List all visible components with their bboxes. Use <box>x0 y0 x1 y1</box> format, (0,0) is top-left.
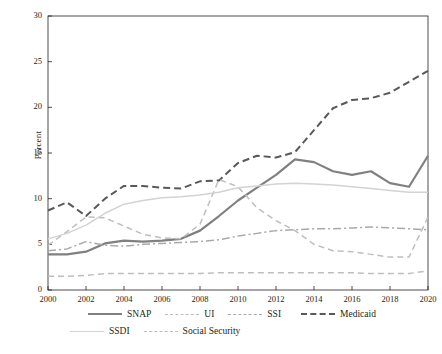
x-tick-label: 2010 <box>223 294 253 304</box>
series-line <box>48 183 428 239</box>
y-tick-label: 10 <box>22 193 42 203</box>
y-tick-label: 15 <box>22 147 42 157</box>
legend-swatch-social-security <box>144 331 178 332</box>
x-tick-label: 2018 <box>375 294 405 304</box>
legend-swatch-snap <box>88 313 122 315</box>
x-tick-label: 2002 <box>71 294 101 304</box>
series-line <box>48 71 428 216</box>
legend-label: Medicaid <box>340 309 376 319</box>
legend-item: SNAP <box>88 307 151 321</box>
legend-label: SNAP <box>127 309 151 319</box>
chart-legend: SNAPUISSIMedicaidSSDISocial Security <box>70 307 410 341</box>
legend-label: UI <box>204 309 214 319</box>
y-tick-label: 25 <box>22 56 42 66</box>
x-tick-label: 2020 <box>413 294 442 304</box>
legend-swatch-ssdi <box>70 331 104 332</box>
series-line <box>48 156 428 255</box>
y-tick-label: 5 <box>22 238 42 248</box>
series-line <box>48 179 428 257</box>
series-line <box>48 227 428 251</box>
x-tick-label: 2000 <box>33 294 63 304</box>
x-tick-label: 2006 <box>147 294 177 304</box>
y-tick-label: 30 <box>22 10 42 20</box>
legend-item: UI <box>165 307 214 321</box>
x-tick-label: 2008 <box>185 294 215 304</box>
legend-label: SSDI <box>109 326 130 336</box>
legend-item: Social Security <box>144 324 241 338</box>
y-tick-label: 20 <box>22 101 42 111</box>
legend-label: SSI <box>267 309 281 319</box>
x-tick-label: 2012 <box>261 294 291 304</box>
chart-container: Percent 051015202530 2000200220042006200… <box>0 0 442 354</box>
legend-swatch-ui <box>165 314 199 315</box>
legend-item: SSI <box>228 307 281 321</box>
x-tick-label: 2004 <box>109 294 139 304</box>
y-tick-label: 0 <box>22 284 42 294</box>
series-line <box>48 271 428 276</box>
legend-item: Medicaid <box>301 307 376 321</box>
legend-swatch-medicaid <box>301 313 335 315</box>
legend-item: SSDI <box>70 324 130 338</box>
legend-swatch-ssi <box>228 314 262 315</box>
legend-label: Social Security <box>183 326 241 336</box>
x-tick-label: 2016 <box>337 294 367 304</box>
x-tick-label: 2014 <box>299 294 329 304</box>
